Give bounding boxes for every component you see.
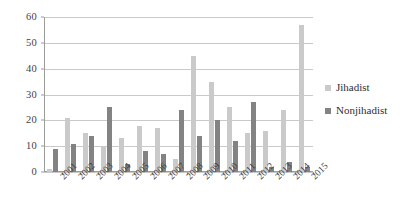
- bar-group: [259, 17, 277, 172]
- legend-label: Nonjihadist: [336, 105, 387, 116]
- y-axis-tick-label: 0: [32, 167, 37, 178]
- bar-group: [134, 17, 152, 172]
- legend-swatch-icon: [325, 85, 331, 91]
- bar-group: [116, 17, 134, 172]
- x-axis-tick-label-2010: 2010: [220, 175, 227, 182]
- legend-item-nonjihadist[interactable]: Nonjihadist: [325, 105, 405, 116]
- x-axis-tick-label-2014: 2014: [292, 175, 299, 182]
- bar-group: [62, 17, 80, 172]
- x-axis-tick-label-2007: 2007: [167, 175, 174, 182]
- x-axis-tick-label-2015: 2015: [310, 175, 317, 182]
- y-axis: 0102030405060: [0, 0, 44, 209]
- bar-group: [277, 17, 295, 172]
- y-axis-tick-label: 20: [26, 115, 37, 126]
- bar-jihadist-2010: [209, 82, 214, 172]
- y-axis-tick-label: 50: [26, 38, 37, 49]
- x-axis-tick-label-2005: 2005: [131, 175, 138, 182]
- bar-group: [223, 17, 241, 172]
- x-axis-tick-label-2009: 2009: [202, 175, 209, 182]
- x-axis-tick-label-2001: 2001: [59, 175, 66, 182]
- bar-group: [187, 17, 205, 172]
- x-axis-tick-label-2003: 2003: [95, 175, 102, 182]
- x-axis: 2001200220032004200520062007200820092010…: [44, 172, 313, 209]
- bar-jihadist-2009: [191, 56, 196, 172]
- legend-label: Jihadist: [336, 82, 370, 93]
- bar-chart: 0102030405060 20012002200320042005200620…: [0, 0, 407, 209]
- bar-group: [205, 17, 223, 172]
- bar-group: [152, 17, 170, 172]
- x-axis-tick-label-2002: 2002: [77, 175, 84, 182]
- y-axis-tick-label: 40: [26, 63, 37, 74]
- bar-nonjihadist-2001: [53, 149, 58, 172]
- bar-group: [98, 17, 116, 172]
- x-axis-tick-label-2004: 2004: [113, 175, 120, 182]
- x-axis-tick-label-2008: 2008: [185, 175, 192, 182]
- bar-group: [170, 17, 188, 172]
- bar-jihadist-2015: [299, 25, 304, 172]
- y-axis-tick-label: 30: [26, 89, 37, 100]
- plot-area: [44, 17, 313, 172]
- bar-group: [295, 17, 313, 172]
- x-axis-tick-label-2013: 2013: [274, 175, 281, 182]
- x-axis-tick-label-2011: 2011: [238, 175, 245, 182]
- legend-swatch-icon: [325, 108, 331, 114]
- bars-layer: [44, 17, 313, 172]
- x-axis-tick-label-2006: 2006: [149, 175, 156, 182]
- bar-group: [44, 17, 62, 172]
- x-axis-tick-label-2012: 2012: [256, 175, 263, 182]
- legend-item-jihadist[interactable]: Jihadist: [325, 82, 405, 93]
- chart-legend: JihadistNonjihadist: [325, 82, 405, 128]
- y-axis-tick-label: 60: [26, 12, 37, 23]
- y-axis-tick-label: 10: [26, 141, 37, 152]
- bar-group: [241, 17, 259, 172]
- bar-group: [80, 17, 98, 172]
